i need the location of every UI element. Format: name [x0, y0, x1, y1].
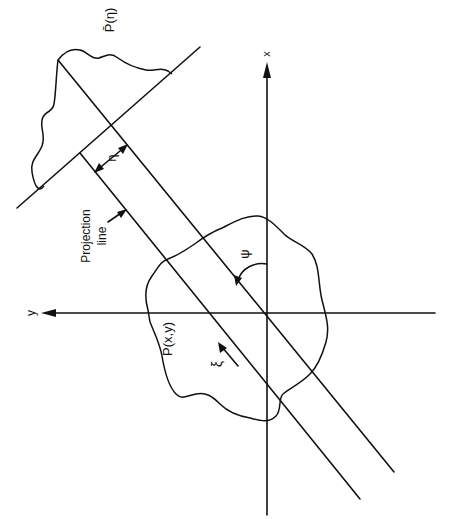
projection-diagram: x y η Projection line ψ ξ P(x,y) P̄(η) [0, 0, 450, 519]
x-axis-arrowhead-icon [263, 62, 271, 78]
xi-label: ξ [209, 361, 225, 367]
y-axis-arrowhead-icon [41, 309, 56, 317]
projection-line-label-2: line [95, 226, 109, 245]
eta-label: η [104, 154, 119, 161]
psi-label: ψ [237, 249, 252, 258]
object-outline [146, 216, 328, 421]
eta-arrowhead-left-icon [94, 163, 104, 173]
projection-profile-curve [58, 49, 172, 74]
object-function-label: P(x,y) [160, 322, 175, 356]
y-axis-label: y [24, 310, 38, 316]
x-axis-label: x [260, 51, 272, 57]
ray-through-origin [58, 60, 394, 472]
eta-axis [17, 47, 200, 208]
pointer-arrowhead-icon [117, 209, 127, 218]
eta-arrowhead-right-icon [118, 144, 128, 154]
projection-function-label: P̄(η) [102, 8, 117, 33]
projection-line [80, 153, 360, 499]
projection-profile-left-edge [32, 60, 58, 189]
psi-arc [238, 264, 267, 280]
projection-line-label-1: Projection [79, 209, 93, 262]
